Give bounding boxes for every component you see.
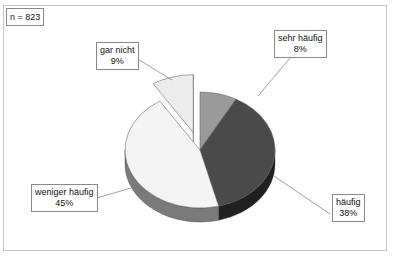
leader-sehr-haeufig [258,58,290,96]
sample-size-label: n = 823 [6,8,44,26]
label-weniger-haeufig-name: weniger häufig [35,187,94,198]
label-haeufig-value: 38% [336,208,361,219]
label-haeufig-name: häufig [336,197,361,208]
label-gar-nicht-value: 9% [100,56,135,67]
leader-haeufig [274,176,330,214]
label-weniger-haeufig-value: 45% [35,198,94,209]
label-sehr-haeufig-value: 8% [278,44,323,55]
leader-gar-nicht [136,58,172,80]
label-gar-nicht: gar nicht 9% [96,42,139,70]
label-weniger-haeufig: weniger häufig 45% [31,184,98,212]
label-sehr-haeufig-name: sehr häufig [278,33,323,44]
label-gar-nicht-name: gar nicht [100,45,135,56]
label-haeufig: häufig 38% [332,194,365,222]
label-sehr-haeufig: sehr häufig 8% [274,30,327,58]
